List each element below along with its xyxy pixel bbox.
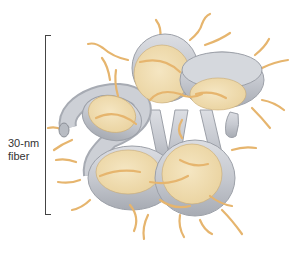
chromatin-fiber-illustration bbox=[0, 0, 306, 260]
